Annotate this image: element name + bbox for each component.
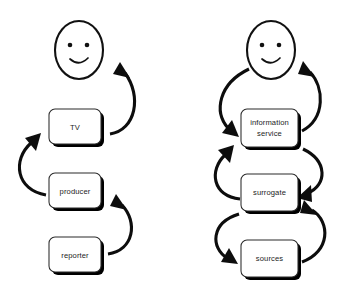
arrow-sources-to-surrogate [300,200,325,262]
node-surrogate: surrogate [241,174,301,214]
arrow-surrogate-to-sources [216,214,239,264]
node-surrogate-label: surrogate [253,188,286,197]
node-sources: sources [241,240,301,280]
node-producer-label: producer [60,187,91,196]
arrow-tv-to-face [110,62,135,134]
arrow-reporter-to-producer [108,194,131,254]
node-producer: producer [49,173,104,211]
user-face [247,21,295,79]
arrow-producer-to-tv [19,133,46,195]
node-tv: TV [49,109,104,147]
arrow-information-service-to-face [298,61,320,131]
node-sources-label: sources [256,254,283,263]
node-information-service-label-line2: service [257,129,282,138]
diagram-canvas: TV producer reporter [0,0,341,304]
node-information-service: information service [241,109,301,150]
node-tv-label: TV [70,123,81,132]
node-reporter: reporter [49,237,104,275]
arrow-surrogate-to-information-service [215,145,240,199]
viewer-face [55,21,103,79]
node-reporter-label: reporter [61,251,89,260]
node-information-service-label-line1: information [250,118,289,127]
